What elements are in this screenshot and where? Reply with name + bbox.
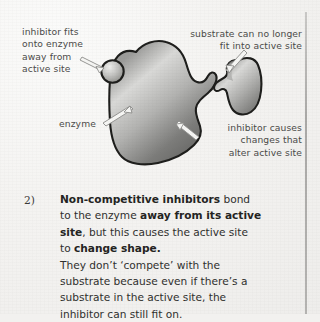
emphasis-text: away from its active xyxy=(140,209,261,221)
paragraph-text: Non-competitive inhibitors bondto the en… xyxy=(60,191,296,322)
numbered-paragraph: 2) Non-competitive inhibitors bondto the… xyxy=(24,191,296,322)
inhibition-diagram: inhibitor fits onto enzyme away from act… xyxy=(0,0,320,180)
paragraph-line: Non-competitive inhibitors bond xyxy=(60,191,296,207)
page-edge-rule xyxy=(305,12,307,314)
annotation-substrate-no-longer-fits: substrate can no longer fit into active … xyxy=(160,28,302,53)
plain-text: inhibitor can still fit on. xyxy=(60,308,182,320)
arrow-to-inhibitor xyxy=(80,57,104,73)
annotation-inhibitor-causes-changes: inhibitor causes changes that alter acti… xyxy=(178,122,302,159)
plain-text: to xyxy=(60,242,74,254)
plain-text: , but this causes the active site xyxy=(82,226,248,238)
paragraph-line: substrate in the active site, the xyxy=(60,289,296,305)
substrate-shape xyxy=(214,58,261,115)
plain-text: bond xyxy=(220,193,250,205)
plain-text: They don’t ‘compete’ with the xyxy=(60,259,220,271)
inhibitor-shape xyxy=(101,60,123,82)
plain-text: to the enzyme xyxy=(60,209,140,221)
annotation-inhibitor-fits: inhibitor fits onto enzyme away from act… xyxy=(22,26,83,76)
paragraph-line: to change shape. xyxy=(60,240,296,256)
emphasis-text: site xyxy=(60,226,82,238)
emphasis-text: change shape. xyxy=(74,242,161,254)
plain-text: substrate because even if there’s a xyxy=(60,275,247,287)
paragraph-line: They don’t ‘compete’ with the xyxy=(60,257,296,273)
emphasis-text: Non-competitive inhibitors xyxy=(60,193,220,205)
paragraph-line: inhibitor can still fit on. xyxy=(60,306,296,322)
paragraph-line: to the enzyme away from its active xyxy=(60,207,296,223)
plain-text: substrate in the active site, the xyxy=(60,291,226,303)
list-marker: 2) xyxy=(24,191,60,322)
paragraph-line: site, but this causes the active site xyxy=(60,224,296,240)
body-text-block: 2) Non-competitive inhibitors bondto the… xyxy=(0,183,300,314)
paragraph-line: substrate because even if there’s a xyxy=(60,273,296,289)
annotation-enzyme: enzyme xyxy=(59,118,96,130)
